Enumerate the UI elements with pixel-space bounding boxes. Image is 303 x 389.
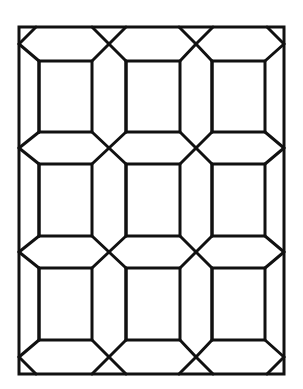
diagonals — [19, 27, 284, 374]
diagonal-lead — [196, 132, 212, 148]
top-x-lead — [179, 27, 196, 44]
diagonal-lead — [180, 340, 196, 357]
bottom-x-lead — [179, 357, 196, 374]
diagonal-lead — [109, 148, 126, 164]
rect-pane — [126, 268, 180, 340]
rect-pane — [39, 164, 92, 236]
top-x-lead — [109, 27, 126, 44]
rect-pane — [39, 61, 92, 132]
diagonal-lead — [109, 236, 126, 252]
lattice-svg — [0, 0, 303, 389]
diagonal-lead — [180, 44, 196, 61]
rect-pane — [212, 164, 265, 236]
diagonal-lead — [92, 236, 109, 252]
panes — [39, 61, 265, 340]
diagonal-lead — [265, 148, 284, 164]
diagonal-lead — [265, 236, 284, 252]
diagonal-lead — [265, 340, 284, 357]
bottom-x-lead — [267, 357, 284, 374]
diagonal-lead — [109, 44, 126, 61]
diagonal-lead — [19, 340, 39, 357]
diagonal-lead — [19, 44, 39, 61]
diagonal-lead — [265, 44, 284, 61]
rect-pane — [212, 268, 265, 340]
top-x-lead — [19, 27, 36, 44]
frame — [19, 27, 284, 374]
rect-pane — [126, 61, 180, 132]
diagonal-lead — [19, 252, 39, 268]
diagonal-lead — [109, 340, 126, 357]
diagonal-lead — [92, 340, 109, 357]
bottom-x-lead — [19, 357, 36, 374]
rect-pane — [39, 268, 92, 340]
diagonal-lead — [265, 132, 284, 148]
diagonal-lead — [92, 252, 109, 268]
diagonal-lead — [109, 132, 126, 148]
outer-frame — [19, 27, 284, 374]
diagonal-lead — [265, 252, 284, 268]
diagonal-lead — [109, 252, 126, 268]
diagonal-lead — [19, 148, 39, 164]
diagonal-lead — [92, 44, 109, 61]
lattice-diagram — [0, 0, 303, 389]
diagonal-lead — [180, 236, 196, 252]
diagonal-lead — [92, 132, 109, 148]
diagonal-lead — [19, 132, 39, 148]
bottom-x-lead — [196, 357, 213, 374]
top-x-lead — [196, 27, 213, 44]
diagonal-lead — [180, 132, 196, 148]
diagonal-lead — [196, 148, 212, 164]
diagonal-lead — [196, 236, 212, 252]
bottom-x-lead — [109, 357, 126, 374]
diagonal-lead — [180, 148, 196, 164]
bottom-x-lead — [92, 357, 109, 374]
diagonal-lead — [196, 44, 212, 61]
top-x-lead — [267, 27, 284, 44]
rect-pane — [212, 61, 265, 132]
diagonal-lead — [92, 148, 109, 164]
rect-pane — [126, 164, 180, 236]
diagonal-lead — [196, 340, 212, 357]
diagonal-lead — [180, 252, 196, 268]
top-x-lead — [92, 27, 109, 44]
diagonal-lead — [19, 236, 39, 252]
diagonal-lead — [196, 252, 212, 268]
